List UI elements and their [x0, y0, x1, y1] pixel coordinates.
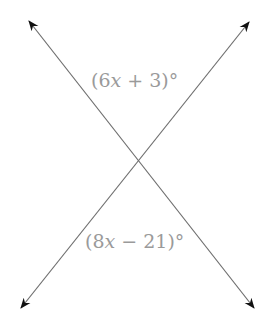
angle-label-bottom: (8x − 21)° — [85, 230, 184, 252]
line-2 — [21, 22, 249, 308]
intersecting-lines-diagram — [0, 0, 275, 326]
line-1 — [29, 21, 254, 308]
angle-label-top: (6x + 3)° — [91, 69, 178, 91]
